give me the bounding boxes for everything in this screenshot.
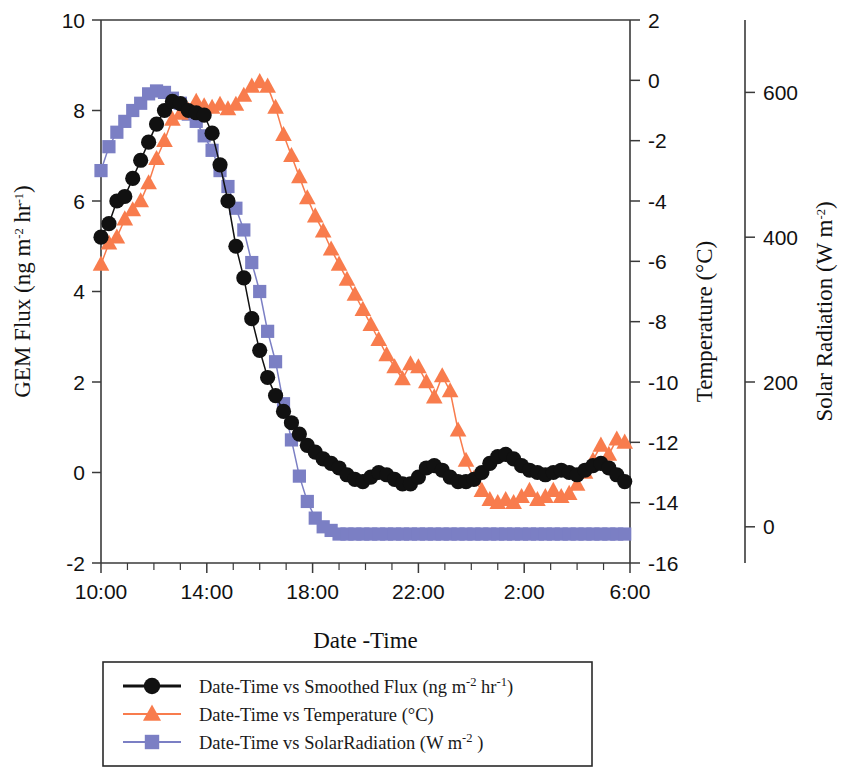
left-axis-tick-label: 8 [73,99,85,122]
legend-item-label: Date-Time vs Smoothed Flux (ng m-2 hr-1) [199,675,513,698]
data-point-marker [426,388,443,403]
temperature-axis-tick-label: 0 [648,69,660,92]
solar-axis-tick-label: 200 [763,371,798,394]
data-point-marker [148,150,165,165]
temperature-axis-title: Temperature (°C) [692,241,717,402]
series-temperature [93,73,633,509]
data-point-marker [237,223,250,236]
data-point-marker [94,164,107,177]
left-axis-tick-label: 2 [73,371,85,394]
chart-svg: 1086420-210:0014:0018:0022:002:006:00Dat… [0,0,858,768]
data-point-marker [378,346,395,361]
data-point-marker [275,126,292,141]
data-point-marker [418,373,435,388]
data-point-marker [133,153,148,168]
series-line [101,101,625,483]
x-axis-tick-label: 6:00 [610,580,651,603]
chart-legend: Date-Time vs Smoothed Flux (ng m-2 hr-1)… [103,662,592,766]
data-point-marker [307,207,324,222]
temperature-axis-tick-label: -14 [648,491,679,514]
left-axis-tick-label: 10 [62,9,85,32]
data-point-marker [260,370,275,385]
data-point-marker [267,99,284,114]
solar-axis-tick-label: 0 [763,515,775,538]
x-axis-tick-label: 14:00 [181,580,234,603]
x-axis-tick-label: 2:00 [504,580,545,603]
legend-marker-icon [144,678,160,694]
data-point-marker [125,171,140,186]
data-point-marker [331,256,348,271]
data-point-marker [442,382,459,397]
left-axis-title: GEM Flux (ng m-2 hr-1) [10,185,35,398]
temperature-axis-tick-label: -4 [648,190,667,213]
data-point-marker [315,222,332,237]
data-point-marker [362,316,379,331]
x-axis-tick-label: 18:00 [286,580,339,603]
data-point-marker [301,495,314,508]
data-point-marker [204,126,219,141]
data-point-marker [244,311,259,326]
x-axis-tick-label: 10:00 [75,580,128,603]
svg-text:Temperature (°C): Temperature (°C) [692,241,717,402]
data-point-marker [93,230,108,245]
data-point-marker [117,189,132,204]
data-point-marker [323,241,340,256]
data-point-marker [141,135,156,150]
data-point-marker [245,256,258,269]
data-point-marker [299,189,316,204]
legend-item-label: Date-Time vs Temperature (°C) [199,705,434,726]
solar-axis-tick-label: 400 [763,226,798,249]
series-smoothed-flux [93,94,632,492]
data-point-marker [291,168,308,183]
data-point-marker [370,331,387,346]
data-point-marker [132,192,149,207]
series-line [101,82,625,503]
svg-text:GEM Flux (ng m-2 hr-1): GEM Flux (ng m-2 hr-1) [10,185,35,398]
solar-axis-tick-label: 600 [763,81,798,104]
left-axis-tick-label: -2 [66,552,85,575]
data-point-marker [101,216,116,231]
data-series-group [93,73,633,541]
data-point-marker [339,271,356,286]
temperature-axis-tick-label: -12 [648,431,678,454]
data-point-marker [102,140,115,153]
data-point-marker [269,355,282,368]
data-point-marker [618,527,631,540]
left-axis-tick-label: 4 [73,280,85,303]
data-point-marker [140,174,157,189]
solar-axis-title: Solar Radiation (W m-2) [812,201,837,421]
data-point-marker [149,116,164,131]
data-point-marker [220,193,235,208]
x-axis-title: Date -Time [313,628,418,653]
temperature-axis-tick-label: -6 [648,250,667,273]
left-axis-tick-label: 0 [73,461,85,484]
data-point-marker [228,239,243,254]
data-point-marker [252,343,267,358]
data-point-marker [253,285,266,298]
left-axis-tick-label: 6 [73,190,85,213]
data-point-marker [93,256,110,271]
temperature-axis-tick-label: -2 [648,129,667,152]
data-point-marker [355,301,372,316]
data-point-marker [293,470,306,483]
data-point-marker [593,437,610,452]
data-point-marker [521,482,538,497]
data-point-marker [283,147,300,162]
data-point-marker [156,132,173,147]
x-axis-tick-label: 22:00 [392,580,445,603]
svg-text:Solar Radiation (W m-2): Solar Radiation (W m-2) [812,201,837,421]
data-point-marker [268,388,283,403]
data-point-marker [434,367,451,382]
data-point-marker [347,286,364,301]
data-point-marker [617,474,632,489]
data-point-marker [458,452,475,467]
temperature-axis-tick-label: 2 [648,9,660,32]
data-point-marker [450,422,467,437]
chart-figure: 1086420-210:0014:0018:0022:002:006:00Dat… [0,0,858,768]
data-point-marker [236,270,251,285]
legend-item-label: Date-Time vs SolarRadiation (W m-2 ) [199,731,483,754]
data-point-marker [261,325,274,338]
temperature-axis-tick-label: -16 [648,552,678,575]
temperature-axis-tick-label: -8 [648,310,667,333]
temperature-axis-tick-label: -10 [648,371,678,394]
